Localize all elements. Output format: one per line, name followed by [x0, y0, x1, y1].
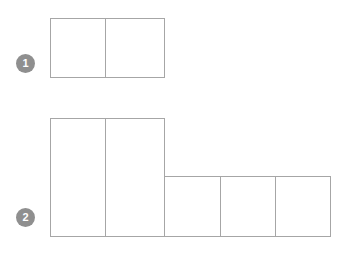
- row-2-short-bar-segment-3: [275, 177, 330, 236]
- row-2-tall-bar-segment-2: [105, 119, 164, 236]
- row-2-tall-bar-segment-1: [51, 119, 105, 236]
- row-2-number-badge: 2: [16, 208, 35, 227]
- row-2-short-bar-segment-1: [165, 177, 220, 236]
- row-2-tall-bar: [50, 118, 165, 237]
- diagram-canvas: 1 2: [0, 0, 355, 267]
- row-1-bar: [50, 18, 165, 78]
- row-2-short-bar-segment-2: [220, 177, 275, 236]
- row-1-bar-segment-1: [51, 19, 105, 77]
- row-1-bar-segment-2: [105, 19, 164, 77]
- row-1-number-badge: 1: [16, 54, 35, 73]
- row-2-short-bar: [164, 176, 331, 237]
